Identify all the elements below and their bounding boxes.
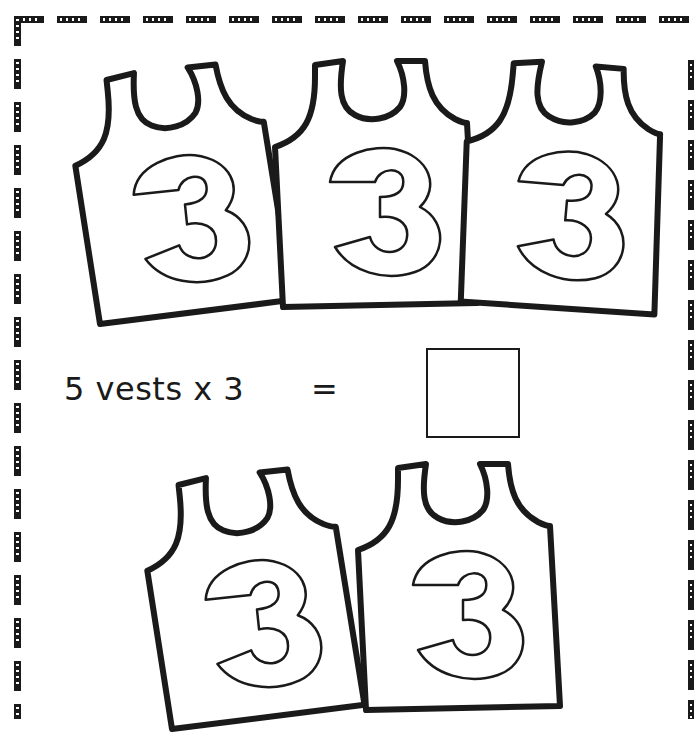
equals-sign: = <box>311 370 338 408</box>
dashed-border-left-dots <box>16 16 19 719</box>
dashed-border-right-dots <box>690 60 692 719</box>
dashed-border-top-dots <box>14 18 696 21</box>
multiplication-equation: 5 vests x 3 = <box>64 370 244 408</box>
vest-icon-3 <box>430 50 680 340</box>
answer-box[interactable] <box>426 348 520 438</box>
equation-text: 5 vests x 3 <box>64 370 244 408</box>
vest-icon-5 <box>330 455 570 735</box>
